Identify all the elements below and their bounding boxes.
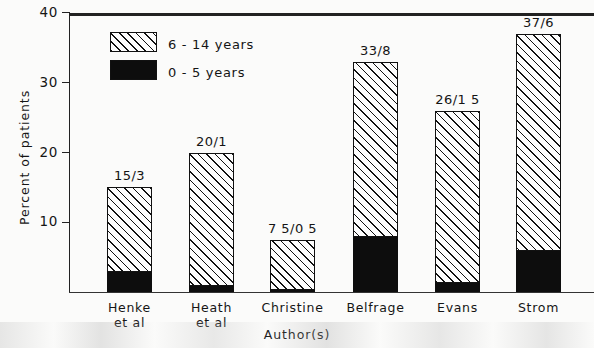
x-tick-label-heath-et-al: Heath et al bbox=[167, 301, 256, 331]
legend-swatch-6-14-years bbox=[110, 32, 157, 52]
chart-figure: 40 30 20 10 Percent of patients Author(s… bbox=[0, 0, 594, 348]
legend-label-6-14-years: 6 - 14 years bbox=[168, 38, 254, 51]
legend-swatch-0-5-years bbox=[110, 60, 157, 80]
y-axis-title: Percent of patients bbox=[17, 78, 32, 238]
y-tick-mark-10 bbox=[62, 222, 70, 223]
bar-segment-0-5-years-6 bbox=[516, 250, 561, 292]
y-tick-mark-40 bbox=[62, 12, 70, 13]
bar-value-label-6: 37/6 bbox=[498, 16, 579, 29]
y-tick-mark-30 bbox=[62, 82, 70, 83]
bar-value-label-2: 20/1 bbox=[171, 135, 252, 148]
bar-value-label-4: 33/8 bbox=[335, 44, 416, 57]
x-tick-label-henke-et-al: Henke et al bbox=[85, 301, 174, 331]
bar-heath-et-al bbox=[189, 153, 234, 293]
bar-value-label-3: 7 5/0 5 bbox=[252, 222, 333, 235]
bar-segment-0-5-years-5 bbox=[435, 282, 480, 292]
legend-label-0-5-years: 0 - 5 years bbox=[168, 66, 245, 79]
bar-segment-0-5-years-3 bbox=[270, 289, 315, 292]
bar-segment-0-5-years-4 bbox=[353, 236, 398, 292]
bar-value-label-5: 26/1 5 bbox=[417, 93, 498, 106]
y-tick-mark-20 bbox=[62, 152, 70, 153]
x-tick-label-belfrage: Belfrage bbox=[331, 301, 420, 316]
x-axis-line bbox=[69, 292, 594, 293]
bar-evans bbox=[435, 111, 480, 292]
y-axis-line bbox=[69, 13, 70, 293]
bar-segment-0-5-years-2 bbox=[189, 285, 234, 292]
x-tick-label-strom: Strom bbox=[494, 301, 583, 316]
bar-christine bbox=[270, 240, 315, 292]
y-tick-label-40: 40 bbox=[14, 6, 58, 20]
x-tick-label-evans: Evans bbox=[413, 301, 502, 316]
bar-segment-0-5-years-1 bbox=[107, 271, 152, 292]
x-tick-label-christine: Christine bbox=[248, 301, 337, 316]
bar-value-label-1: 15/3 bbox=[89, 169, 170, 182]
